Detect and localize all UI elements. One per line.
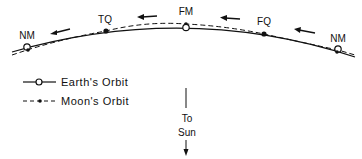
direction-arrow-icon [50, 29, 70, 35]
phase-label: FM [179, 6, 193, 17]
earth-marker-icon [36, 79, 42, 85]
direction-arrow-icon [294, 27, 315, 33]
phase-new-moon-left: NM [19, 30, 35, 52]
moon-position-icon [26, 48, 30, 52]
moon-position-icon [335, 50, 339, 54]
orbit-diagram: NM TQ FM FQ NM E [0, 0, 362, 159]
phase-third-quarter: TQ [98, 14, 112, 34]
sun-direction-indicator: To Sun [178, 88, 196, 156]
legend-earth-orbit: Earth's Orbit [23, 76, 128, 88]
phase-label: FQ [257, 16, 271, 27]
earth-position-icon [183, 24, 189, 30]
sun-label-line2: Sun [178, 127, 196, 138]
phase-label: NM [330, 33, 346, 44]
legend-moon-orbit: Moon's Orbit [23, 95, 129, 107]
direction-arrow-icon [220, 15, 240, 21]
moon-position-icon [261, 31, 266, 36]
legend-earth-label: Earth's Orbit [61, 76, 128, 88]
phase-label: NM [19, 30, 35, 41]
arrow-down-icon [184, 149, 189, 156]
legend: Earth's Orbit Moon's Orbit [23, 76, 129, 107]
moon-marker-icon [38, 99, 42, 103]
phase-full-moon: FM [179, 6, 193, 31]
legend-moon-label: Moon's Orbit [61, 95, 129, 107]
moon-position-icon [103, 28, 108, 33]
phase-label: TQ [98, 14, 112, 25]
sun-label-line1: To [182, 113, 193, 124]
direction-arrow-icon [137, 14, 157, 20]
